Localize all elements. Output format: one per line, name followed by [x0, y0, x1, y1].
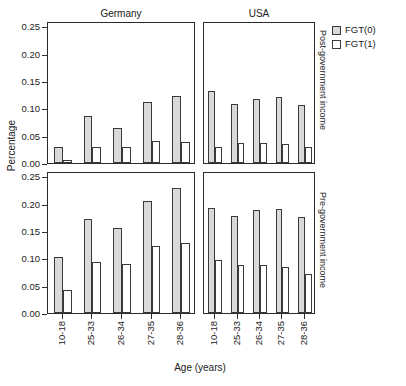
bar-fgt0-25-33: [231, 216, 238, 313]
x-tick-mark: [151, 314, 152, 319]
y-tick-label: 0.15: [12, 226, 40, 237]
plot-area: [204, 173, 314, 313]
bar-fgt1-26-34: [122, 264, 131, 313]
y-tick-mark: [42, 109, 47, 110]
bar-fgt0-25-33: [84, 116, 93, 163]
bar-fgt1-28-36: [181, 243, 190, 313]
bar-fgt1-27-35: [282, 267, 289, 313]
bar-fgt1-26-34: [122, 147, 131, 163]
bar-fgt1-26-34: [260, 143, 267, 163]
bar-fgt0-27-35: [143, 201, 152, 314]
x-tick-mark: [237, 314, 238, 319]
x-tick-label-28-36: 28-36: [174, 321, 185, 345]
bar-fgt0-28-36: [172, 188, 181, 313]
panel-usa-post-government: [203, 22, 315, 164]
bar-fgt0-27-35: [276, 209, 283, 313]
y-tick-mark: [42, 259, 47, 260]
bar-fgt1-27-35: [152, 141, 161, 163]
bar-fgt1-27-35: [282, 144, 289, 163]
facet-column-header-usa: USA: [203, 8, 315, 19]
legend-item-fgt1[interactable]: FGT(1): [332, 38, 376, 50]
legend-item-fgt0[interactable]: FGT(0): [332, 24, 376, 36]
y-tick-mark: [42, 177, 47, 178]
x-tick-mark: [180, 314, 181, 319]
y-tick-label: 0.10: [12, 103, 40, 114]
bar-fgt1-10-18: [63, 160, 72, 163]
bar-fgt0-10-18: [54, 147, 63, 163]
plot-area: [48, 173, 194, 313]
x-tick-label-26-34: 26-34: [253, 321, 264, 345]
facet-row-label-pre-government: Pre-government income: [318, 192, 328, 288]
x-tick-label-10-18: 10-18: [208, 321, 219, 345]
legend-swatch-fgt1-icon: [332, 40, 341, 49]
x-tick-mark: [259, 314, 260, 319]
legend: FGT(0) FGT(1): [332, 24, 376, 52]
x-tick-label-25-33: 25-33: [85, 321, 96, 345]
plot-area: [204, 23, 314, 163]
x-tick-mark: [281, 314, 282, 319]
y-tick-mark: [42, 27, 47, 28]
bar-fgt1-28-36: [305, 274, 312, 313]
bar-fgt1-25-33: [92, 262, 101, 313]
y-tick-label: 0.20: [12, 199, 40, 210]
y-tick-mark: [42, 164, 47, 165]
x-tick-label-10-18: 10-18: [56, 321, 67, 345]
x-tick-mark: [62, 314, 63, 319]
bar-fgt1-25-33: [238, 143, 245, 163]
bar-fgt0-25-33: [84, 219, 93, 313]
bar-fgt0-10-18: [208, 208, 215, 313]
x-tick-mark: [214, 314, 215, 319]
y-tick-label: 0.10: [12, 253, 40, 264]
bar-fgt0-10-18: [208, 91, 215, 163]
y-tick-label: 0.00: [12, 158, 40, 169]
bar-fgt1-10-18: [215, 260, 222, 313]
bar-fgt0-27-35: [276, 97, 283, 163]
bar-fgt1-25-33: [238, 265, 245, 313]
y-tick-label: 0.00: [12, 308, 40, 319]
bar-fgt1-10-18: [215, 147, 222, 163]
x-tick-label-27-35: 27-35: [145, 321, 156, 345]
bar-fgt1-10-18: [63, 290, 72, 313]
y-tick-mark: [42, 287, 47, 288]
legend-swatch-fgt0-icon: [332, 26, 341, 35]
bar-fgt0-25-33: [231, 104, 238, 163]
x-tick-mark: [91, 314, 92, 319]
bar-fgt0-28-36: [298, 105, 305, 163]
bar-fgt0-26-34: [113, 128, 122, 164]
legend-label-fgt1: FGT(1): [345, 38, 376, 50]
facet-row-label-post-government: Post-government income: [318, 30, 328, 130]
x-tick-label-28-36: 28-36: [298, 321, 309, 345]
bar-fgt0-26-34: [253, 210, 260, 313]
bar-fgt0-28-36: [298, 217, 305, 313]
y-tick-label: 0.15: [12, 76, 40, 87]
y-tick-mark: [42, 137, 47, 138]
x-axis-title: Age (years): [120, 362, 280, 373]
x-tick-label-25-33: 25-33: [231, 321, 242, 345]
facet-column-header-germany: Germany: [47, 8, 195, 19]
y-tick-mark: [42, 82, 47, 83]
bar-fgt0-26-34: [253, 99, 260, 163]
plot-area: [48, 23, 194, 163]
x-tick-label-26-34: 26-34: [115, 321, 126, 345]
bar-fgt0-28-36: [172, 96, 181, 163]
bar-fgt1-28-36: [305, 147, 312, 163]
bar-fgt0-26-34: [113, 228, 122, 313]
bar-fgt1-27-35: [152, 246, 161, 313]
y-tick-label: 0.20: [12, 49, 40, 60]
chart-canvas: Germany USA Percentage Age (years) Post-…: [0, 0, 406, 386]
bar-fgt1-26-34: [260, 265, 267, 313]
bar-fgt1-28-36: [181, 142, 190, 163]
bar-fgt0-10-18: [54, 257, 63, 313]
y-tick-label: 0.25: [12, 171, 40, 182]
y-tick-mark: [42, 314, 47, 315]
panel-germany-post-government: [47, 22, 195, 164]
x-tick-mark: [121, 314, 122, 319]
y-tick-label: 0.05: [12, 131, 40, 142]
x-tick-mark: [304, 314, 305, 319]
panel-germany-pre-government: [47, 172, 195, 314]
bar-fgt1-25-33: [92, 147, 101, 163]
y-tick-label: 0.25: [12, 21, 40, 32]
x-tick-label-27-35: 27-35: [275, 321, 286, 345]
panel-usa-pre-government: [203, 172, 315, 314]
y-tick-mark: [42, 205, 47, 206]
